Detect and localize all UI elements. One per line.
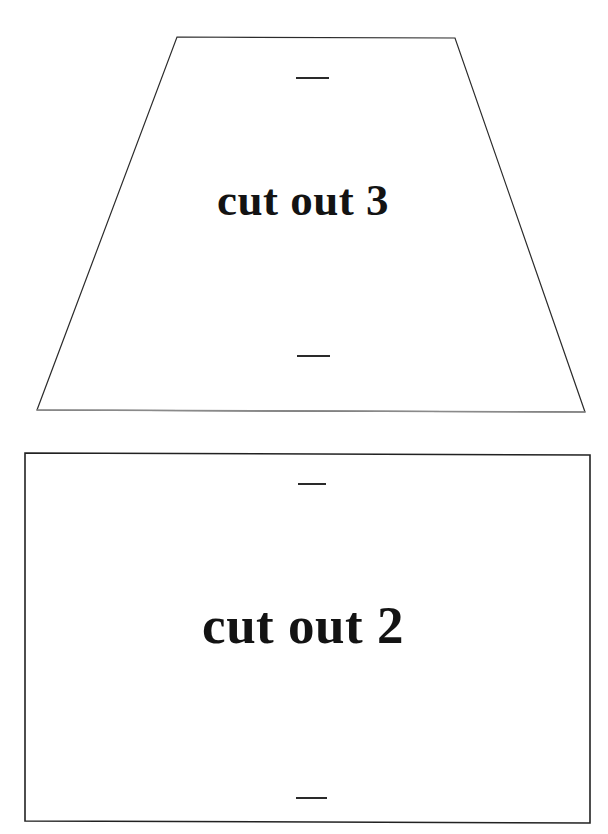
piece-label-cut-out-3: cut out 3: [0, 176, 607, 224]
alignment-tick-rectangle-bottom: [296, 797, 327, 799]
piece-label-cut-out-2: cut out 2: [0, 597, 607, 653]
alignment-tick-rectangle-top: [298, 483, 326, 485]
alignment-tick-trapezoid-bottom: [297, 355, 330, 357]
template-sheet: cut out 3 cut out 2: [0, 0, 608, 834]
alignment-tick-trapezoid-top: [296, 77, 329, 79]
rectangle-piece-outline: [0, 0, 608, 834]
trapezoid-bottom-edge: [37, 410, 585, 412]
trapezoid-piece-outline: [0, 0, 608, 834]
